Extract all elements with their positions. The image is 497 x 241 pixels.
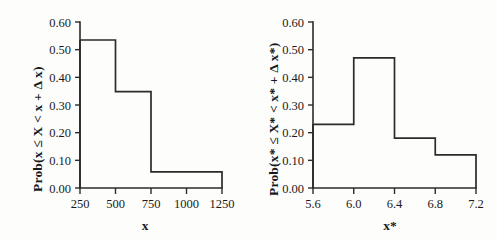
x-tick-label: 1000 bbox=[174, 197, 199, 211]
left-x-axis-label: x bbox=[100, 218, 190, 234]
y-tick-label: 0.30 bbox=[49, 99, 71, 113]
y-tick-label: 0.20 bbox=[49, 126, 71, 140]
y-tick-label: 0.40 bbox=[49, 71, 71, 85]
right-histogram-plot: 0.000.100.200.300.400.500.605.66.06.46.8… bbox=[248, 0, 497, 241]
histogram-figure: 0.000.100.200.300.400.500.60250500750100… bbox=[0, 0, 497, 241]
x-tick-label: 6.0 bbox=[346, 197, 362, 211]
x-tick-label: 6.4 bbox=[387, 197, 403, 211]
x-tick-label: 7.2 bbox=[468, 197, 484, 211]
y-tick-label: 0.10 bbox=[282, 154, 304, 168]
y-tick-label: 0.50 bbox=[49, 43, 71, 57]
y-tick-label: 0.60 bbox=[282, 16, 304, 30]
x-tick-label: 1250 bbox=[210, 197, 235, 211]
y-tick-label: 0.20 bbox=[282, 126, 304, 140]
x-tick-label: 750 bbox=[142, 197, 161, 211]
x-tick-label: 500 bbox=[106, 197, 125, 211]
y-tick-label: 0.50 bbox=[282, 43, 304, 57]
chart-panel-right: 0.000.100.200.300.400.500.605.66.06.46.8… bbox=[248, 0, 497, 241]
y-tick-label: 0.40 bbox=[282, 71, 304, 85]
y-tick-label: 0.10 bbox=[49, 154, 71, 168]
right-x-axis-label: x* bbox=[345, 218, 435, 234]
histogram-step-outline bbox=[313, 58, 476, 188]
y-tick-label: 0.00 bbox=[282, 182, 304, 196]
x-tick-label: 250 bbox=[71, 197, 90, 211]
chart-panel-left: 0.000.100.200.300.400.500.60250500750100… bbox=[0, 0, 248, 241]
histogram-step-outline bbox=[80, 40, 222, 188]
left-y-axis-label: Prob(x ≤ X < x + Δ x) bbox=[30, 66, 46, 192]
x-tick-label: 5.6 bbox=[305, 197, 321, 211]
y-tick-label: 0.30 bbox=[282, 99, 304, 113]
x-tick-label: 6.8 bbox=[427, 197, 443, 211]
y-tick-label: 0.00 bbox=[49, 182, 71, 196]
right-y-axis-label: Prob(x* ≤ X* < x* + Δ x*) bbox=[266, 43, 282, 196]
y-tick-label: 0.60 bbox=[49, 16, 71, 30]
